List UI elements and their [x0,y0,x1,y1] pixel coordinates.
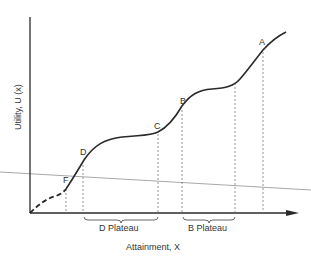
b-plateau-label: B Plateau [188,223,227,233]
point-label-a: A [259,37,265,47]
point-label-c: C [154,121,161,131]
utility-curve [66,32,286,189]
x-axis-title: Attainment, X [126,242,180,252]
point-label-b: B [180,96,186,106]
guide-lines [66,52,263,213]
point-label-d: D [80,147,87,157]
d-plateau-label: D Plateau [99,223,139,233]
point-label-f: F [63,175,69,185]
x-axis-arrow-icon [286,210,299,216]
overlay-line [0,172,311,190]
utility-curve-dashed [30,189,66,213]
y-axis-title: Utility, U (x) [13,84,23,130]
utility-diagram: F D C B A D Plateau B Plateau Attainment… [0,0,311,262]
